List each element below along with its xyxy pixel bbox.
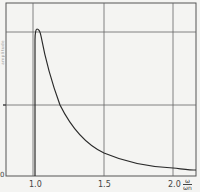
chart-plot: [0, 0, 200, 192]
x-tick-1-0: 1.0: [29, 181, 42, 189]
x-tick-2-0: 2.0: [168, 181, 181, 189]
y-tick-zero: 0: [0, 172, 4, 179]
x-tick-1-5: 1.5: [98, 181, 111, 189]
x-axis-unit-label: ω ωn: [183, 178, 192, 191]
y-axis-label: amplitude: [0, 40, 5, 65]
response-curve: [35, 29, 196, 176]
unit-denominator: ωn: [183, 185, 192, 191]
